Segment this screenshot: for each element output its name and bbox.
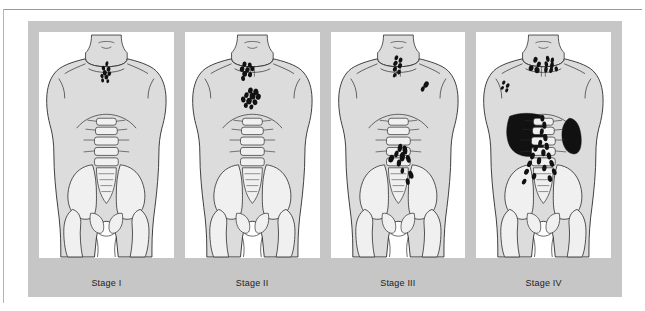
lymph-node: [103, 70, 107, 75]
stage-label-2: Stage II: [185, 269, 320, 297]
page-rule-left: [3, 9, 4, 303]
torso-figure-stage-1: [39, 32, 174, 258]
stage-panel-3[interactable]: [331, 32, 466, 258]
stage-panel-4[interactable]: [476, 32, 611, 258]
torso-figure-stage-2: [185, 32, 320, 258]
stage-label-4: Stage IV: [476, 269, 611, 297]
torso-figure-stage-4: [476, 32, 611, 258]
stage-label-1: Stage I: [39, 269, 174, 297]
staging-figure-frame: Stage I Stage II Stage III Stage IV: [28, 21, 622, 297]
torso-figure-stage-3: [331, 32, 466, 258]
stage-label-row: Stage I Stage II Stage III Stage IV: [28, 269, 622, 297]
stage-label-3: Stage III: [331, 269, 466, 297]
lymph-node: [541, 149, 545, 156]
page-rule-top: [3, 9, 642, 10]
stage-panel-row: [28, 21, 622, 269]
stage-panel-2[interactable]: [185, 32, 320, 258]
stage-panel-1[interactable]: [39, 32, 174, 258]
